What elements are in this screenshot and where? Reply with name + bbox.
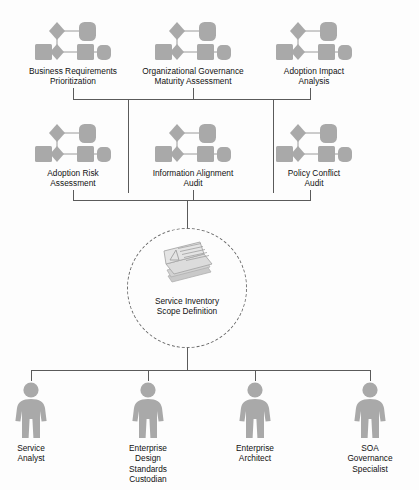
process-node-adoption-risk-assessment[interactable]: Adoption Risk Assessment: [12, 116, 134, 188]
person-icon: [237, 381, 273, 439]
service-inventory-scope-definition-node[interactable]: Service Inventory Scope Definition: [127, 228, 247, 348]
process-label: Adoption Risk Assessment: [12, 168, 134, 188]
process-label: Adoption Impact Analysis: [253, 66, 375, 86]
role-node-enterprise-design-standards-custodian[interactable]: Enterprise Design Standards Custodian: [117, 381, 179, 485]
role-node-enterprise-architect[interactable]: Enterprise Architect: [224, 381, 286, 464]
person-icon: [352, 381, 388, 439]
role-label: Enterprise Architect: [224, 443, 286, 464]
document-stack-icon: [156, 236, 218, 296]
role-label: Enterprise Design Standards Custodian: [117, 443, 179, 485]
person-icon: [130, 381, 166, 439]
process-icon: [147, 14, 239, 64]
process-label: Business Requirements Prioritization: [12, 66, 134, 86]
process-icon: [27, 14, 119, 64]
role-label: Service Analyst: [0, 443, 62, 464]
process-node-organizational-governance-maturity-assessment[interactable]: Organizational Governance Maturity Asses…: [132, 14, 254, 86]
process-node-business-requirements-prioritization[interactable]: Business Requirements Prioritization: [12, 14, 134, 86]
process-icon: [268, 14, 360, 64]
process-label: Information Alignment Audit: [132, 168, 254, 188]
process-icon: [268, 116, 360, 166]
center-node-label: Service Inventory Scope Definition: [127, 296, 247, 317]
diagram-canvas: Business Requirements Prioritization Org…: [0, 0, 419, 490]
process-label: Organizational Governance Maturity Asses…: [132, 66, 254, 86]
role-node-soa-governance-specialist[interactable]: SOA Governance Specialist: [339, 381, 401, 474]
process-icon: [147, 116, 239, 166]
role-node-service-analyst[interactable]: Service Analyst: [0, 381, 62, 464]
person-icon: [13, 381, 49, 439]
process-node-information-alignment-audit[interactable]: Information Alignment Audit: [132, 116, 254, 188]
process-label: Policy Conflict Audit: [253, 168, 375, 188]
process-icon: [27, 116, 119, 166]
process-node-policy-conflict-audit[interactable]: Policy Conflict Audit: [253, 116, 375, 188]
process-node-adoption-impact-analysis[interactable]: Adoption Impact Analysis: [253, 14, 375, 86]
role-label: SOA Governance Specialist: [339, 443, 401, 474]
